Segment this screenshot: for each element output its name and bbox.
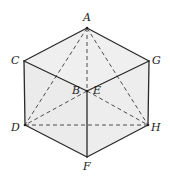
vertex-dot-a — [86, 27, 89, 30]
label-d: D — [10, 121, 20, 134]
label-f: F — [82, 160, 91, 173]
label-h: H — [150, 121, 161, 134]
cube-diagram: A C G B E D H F — [0, 0, 170, 177]
label-g: G — [152, 54, 161, 67]
vertex-dot-b — [86, 90, 89, 93]
vertex-dot-d — [24, 124, 27, 127]
label-b: B — [71, 84, 80, 97]
label-c: C — [11, 54, 20, 67]
vertex-dot-h — [147, 124, 150, 127]
label-a: A — [82, 11, 91, 24]
label-e: E — [92, 84, 101, 97]
